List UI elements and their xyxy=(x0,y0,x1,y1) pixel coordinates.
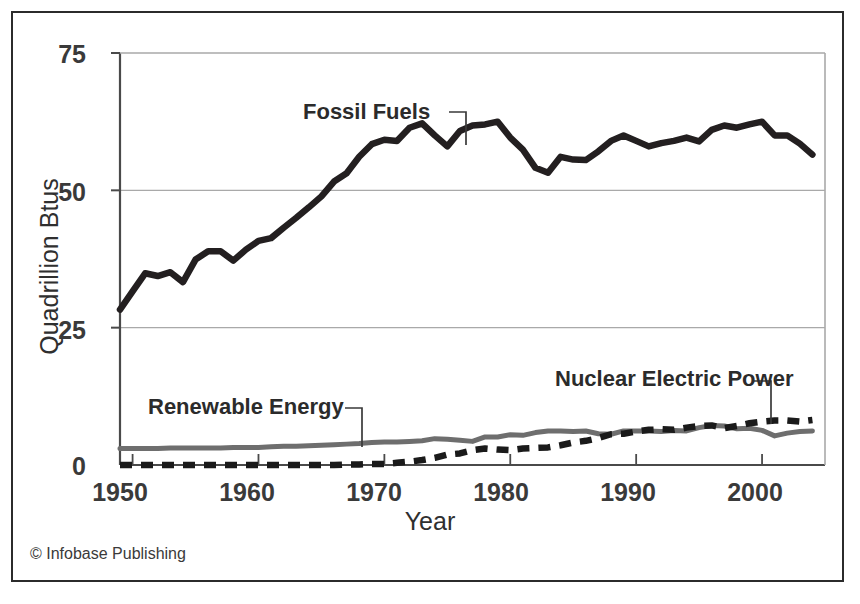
series-label-renewable-energy: Renewable Energy xyxy=(148,394,344,420)
x-tick-label-1980: 1980 xyxy=(463,478,539,507)
x-tick-label-1950: 1950 xyxy=(82,478,158,507)
x-tick-label-2000: 2000 xyxy=(717,478,793,507)
x-axis-title: Year xyxy=(0,507,860,536)
y-tick-label-75: 75 xyxy=(38,40,86,69)
copyright-notice: © Infobase Publishing xyxy=(30,545,186,563)
x-tick-label-1960: 1960 xyxy=(209,478,285,507)
x-tick-label-1990: 1990 xyxy=(590,478,666,507)
x-tick-label-1970: 1970 xyxy=(336,478,412,507)
series-label-fossil-fuels: Fossil Fuels xyxy=(303,99,430,125)
series-label-nuclear-electric-power: Nuclear Electric Power xyxy=(555,366,793,392)
y-tick-label-0: 0 xyxy=(38,452,86,481)
chart-figure: 75 50 25 0 1950 1960 1970 1980 1990 2000… xyxy=(0,0,860,604)
y-axis-title: Quadrillion Btus xyxy=(35,152,64,382)
